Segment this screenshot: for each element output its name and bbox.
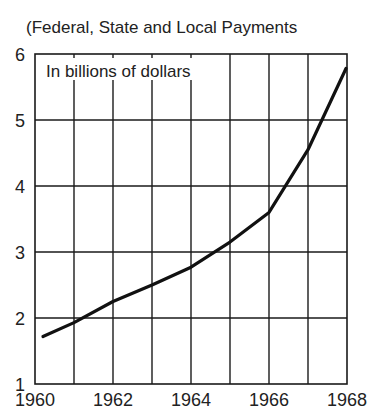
x-tick-label: 1960 bbox=[15, 390, 55, 410]
y-tick-label: 4 bbox=[15, 177, 25, 197]
y-axis-ticks: 123456 bbox=[15, 45, 25, 395]
y-tick-label: 3 bbox=[15, 243, 25, 263]
x-tick-label: 1968 bbox=[327, 390, 367, 410]
x-tick-label: 1964 bbox=[171, 390, 211, 410]
unit-label: In billions of dollars bbox=[46, 62, 191, 81]
grid-lines bbox=[35, 54, 347, 384]
y-tick-label: 2 bbox=[15, 309, 25, 329]
data-line-payments bbox=[43, 69, 346, 337]
x-axis-ticks: 19601962196419661968 bbox=[15, 390, 367, 410]
y-tick-label: 5 bbox=[15, 111, 25, 131]
x-tick-label: 1966 bbox=[249, 390, 289, 410]
y-tick-label: 6 bbox=[15, 45, 25, 65]
line-chart: In billions of dollars 123456 1960196219… bbox=[0, 0, 376, 415]
x-tick-label: 1962 bbox=[93, 390, 133, 410]
